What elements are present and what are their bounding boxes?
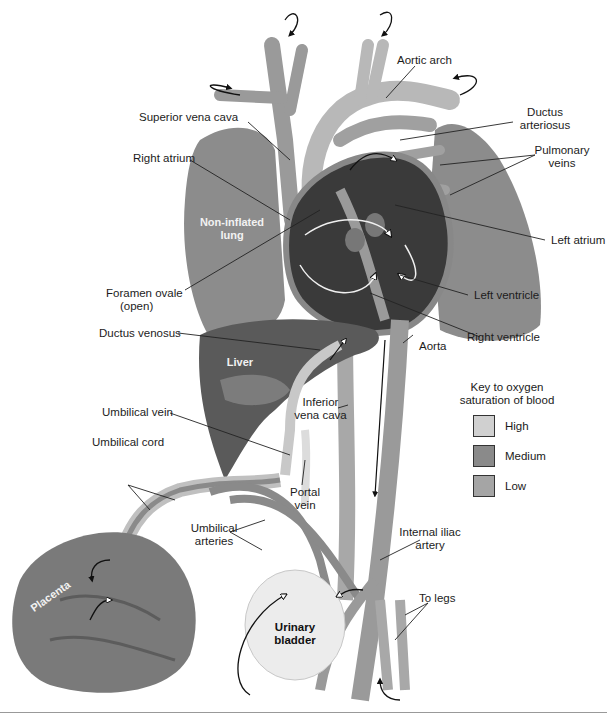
- label-ductus-arteriosus-line1: Ductus: [510, 106, 580, 119]
- oxygen-saturation-key: Key to oxygen saturation of blood High M…: [452, 381, 572, 497]
- label-non-inflated-lung-line1: Non-inflated: [196, 216, 268, 229]
- key-label-medium: Medium: [505, 450, 546, 462]
- key-title-line2: saturation of blood: [452, 394, 562, 407]
- label-inferior-vena-cava-line2: vena cava: [293, 409, 348, 422]
- label-ductus-arteriosus: Ductus arteriosus: [510, 106, 580, 132]
- label-left-ventricle: Left ventricle: [474, 289, 539, 302]
- label-umbilical-arteries: Umbilical arteries: [185, 522, 243, 548]
- label-non-inflated-lung-line2: lung: [196, 229, 268, 242]
- label-to-legs: To legs: [419, 592, 455, 605]
- label-urinary-bladder: Urinary bladder: [266, 621, 324, 647]
- heart: [286, 154, 451, 333]
- label-umbilical-arteries-line2: arteries: [185, 535, 243, 548]
- label-pulmonary-veins-line1: Pulmonary: [527, 144, 597, 157]
- label-right-atrium: Right atrium: [133, 152, 195, 165]
- bottom-rule: [0, 712, 607, 713]
- label-aortic-arch: Aortic arch: [397, 54, 452, 67]
- key-label-low: Low: [505, 480, 526, 492]
- placenta: [12, 532, 195, 693]
- label-urinary-bladder-line2: bladder: [266, 634, 324, 647]
- label-internal-iliac-artery-line2: artery: [390, 539, 470, 552]
- label-left-atrium: Left atrium: [551, 234, 605, 247]
- key-item-medium: Medium: [473, 445, 572, 467]
- inferior-vena-cava: [345, 330, 347, 600]
- swatch-high: [473, 415, 495, 437]
- label-foramen-ovale: Foramen ovale (open): [106, 287, 183, 313]
- label-liver: Liver: [220, 356, 260, 369]
- key-label-high: High: [505, 420, 529, 432]
- label-umbilical-cord: Umbilical cord: [92, 436, 164, 449]
- label-ductus-venosus: Ductus venosus: [99, 327, 181, 340]
- label-pulmonary-veins-line2: veins: [527, 157, 597, 170]
- label-inferior-vena-cava-line1: Inferior: [293, 396, 348, 409]
- label-umbilical-arteries-line1: Umbilical: [185, 522, 243, 535]
- label-portal-vein-line1: Portal: [283, 486, 327, 499]
- label-superior-vena-cava: Superior vena cava: [139, 111, 238, 124]
- label-portal-vein: Portal vein: [283, 486, 327, 512]
- key-item-low: Low: [473, 475, 572, 497]
- label-non-inflated-lung: Non-inflated lung: [196, 216, 268, 242]
- label-inferior-vena-cava: Inferior vena cava: [293, 396, 348, 422]
- label-pulmonary-veins: Pulmonary veins: [527, 144, 597, 170]
- label-portal-vein-line2: vein: [283, 499, 327, 512]
- label-foramen-ovale-line2: (open): [106, 300, 183, 313]
- label-foramen-ovale-line1: Foramen ovale: [106, 287, 183, 300]
- label-aorta: Aorta: [419, 340, 447, 353]
- label-umbilical-vein: Umbilical vein: [102, 406, 173, 419]
- label-internal-iliac-artery: Internal iliac artery: [390, 526, 470, 552]
- label-right-ventricle: Right ventricle: [467, 331, 540, 344]
- swatch-low: [473, 475, 495, 497]
- key-item-high: High: [473, 415, 572, 437]
- key-title: Key to oxygen saturation of blood: [452, 381, 562, 407]
- label-urinary-bladder-line1: Urinary: [266, 621, 324, 634]
- swatch-medium: [473, 445, 495, 467]
- label-internal-iliac-artery-line1: Internal iliac: [390, 526, 470, 539]
- label-ductus-arteriosus-line2: arteriosus: [510, 119, 580, 132]
- key-title-line1: Key to oxygen: [452, 381, 562, 394]
- leg-vessels: [380, 600, 405, 690]
